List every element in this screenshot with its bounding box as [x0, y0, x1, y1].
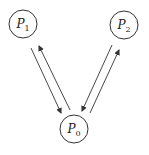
- node-label: P1: [15, 17, 29, 33]
- node-p2: P2: [110, 11, 138, 39]
- node-label: P0: [66, 122, 80, 138]
- edge-p2-to-p0: [82, 45, 112, 111]
- edge-p0-to-p1: [39, 46, 70, 110]
- node-label: P2: [116, 18, 130, 34]
- edge-p0-to-p2: [90, 50, 119, 113]
- node-p0: P0: [60, 115, 88, 143]
- edge-p1-to-p0: [31, 48, 61, 113]
- process-diagram: P1 P2 P0: [0, 0, 149, 155]
- edges: [31, 45, 119, 113]
- node-p1: P1: [9, 10, 37, 38]
